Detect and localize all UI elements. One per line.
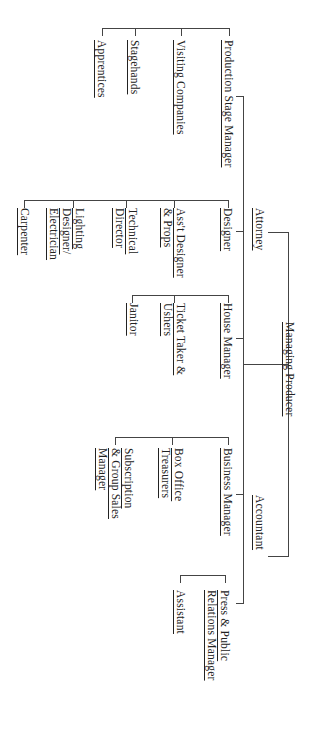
tick-press [225, 575, 226, 583]
tick-assistant [180, 575, 181, 583]
node-apprentices: Apprentices [95, 40, 108, 98]
node-press-relations: Press & PublicRelations Manager [205, 590, 231, 681]
node-carpenter: Carpenter [18, 208, 31, 255]
node-box-office: Box OfficeTreasurers [159, 448, 185, 501]
node-business-manager: Business Manager [221, 448, 234, 536]
node-production-stage-manager: Production Stage Manager [222, 40, 235, 167]
connector-designer [236, 231, 244, 232]
node-lighting-designer: LightingDesigner/Electrician [47, 208, 86, 260]
tick-visiting [181, 28, 182, 36]
bracket-press [180, 575, 225, 576]
bracket-psm [102, 28, 230, 29]
connector-psm [236, 96, 244, 97]
node-managing-producer: Managing Producer [283, 322, 296, 416]
node-attorney: Attorney [253, 208, 266, 250]
tick-box-office [172, 437, 173, 445]
tick-apprentices [102, 28, 103, 36]
node-janitor: Janitor [127, 303, 140, 336]
tick-business [228, 437, 229, 445]
node-accountant: Accountant [253, 495, 266, 550]
tick-technical [126, 200, 127, 208]
tick-janitor [132, 295, 133, 303]
tick-psm [229, 28, 230, 36]
node-stagehands: Stagehands [128, 40, 141, 94]
node-visiting-companies: Visiting Companies [174, 40, 187, 135]
tick-house [228, 295, 229, 303]
connector-attorney [268, 232, 288, 233]
main-spine [243, 96, 244, 603]
node-asst-designer: Ass't Designer& Props [161, 208, 187, 278]
node-assistant: Assistant [174, 590, 187, 634]
connector-business-manager [236, 494, 244, 495]
tick-designer [228, 200, 229, 208]
tick-lighting [73, 200, 74, 208]
node-house-manager: House Manager [221, 303, 234, 379]
node-designer: Designer [221, 208, 234, 251]
tick-carpenter [24, 200, 25, 208]
connector-house-manager [236, 338, 244, 339]
tick-asst-designer [174, 200, 175, 208]
node-technical-director: TechnicalDirector [113, 208, 139, 254]
tick-ticket [174, 295, 175, 303]
tick-subscription [115, 437, 116, 445]
connector-accountant [268, 556, 288, 557]
connector-mp-spine [243, 364, 288, 365]
node-subscription: Subscription& Group SalesManager [96, 448, 135, 519]
bracket-house [132, 295, 229, 296]
node-ticket-taker: Ticket Taker &Ushers [161, 303, 187, 375]
tick-stagehands [135, 28, 136, 36]
connector-press [236, 603, 244, 604]
